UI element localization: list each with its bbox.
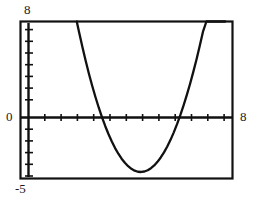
graph-container: 8 0 8 -5 (0, 0, 254, 201)
plot-svg (0, 0, 254, 201)
y-axis-zero-label: 0 (6, 110, 13, 123)
y-axis-min-label: -5 (15, 182, 26, 195)
y-axis-max-label: 8 (24, 3, 31, 16)
x-axis-max-label: 8 (240, 110, 247, 123)
